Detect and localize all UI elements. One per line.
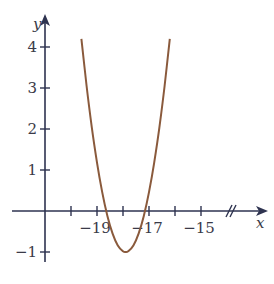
y-tick-label: 1	[27, 161, 37, 179]
x-tick-label: −15	[183, 219, 215, 237]
y-axis-label: y	[32, 15, 42, 33]
y-tick-label: 4	[27, 38, 37, 56]
chart: x y −19−17−15 −11234	[0, 0, 274, 284]
x-tick-label: −19	[79, 219, 111, 237]
y-tick-label: 3	[27, 79, 37, 97]
y-tick-label: 2	[27, 120, 37, 138]
x-tick-label: −17	[131, 219, 163, 237]
x-axis-label: x	[256, 214, 265, 232]
y-tick-label: −1	[15, 243, 37, 261]
